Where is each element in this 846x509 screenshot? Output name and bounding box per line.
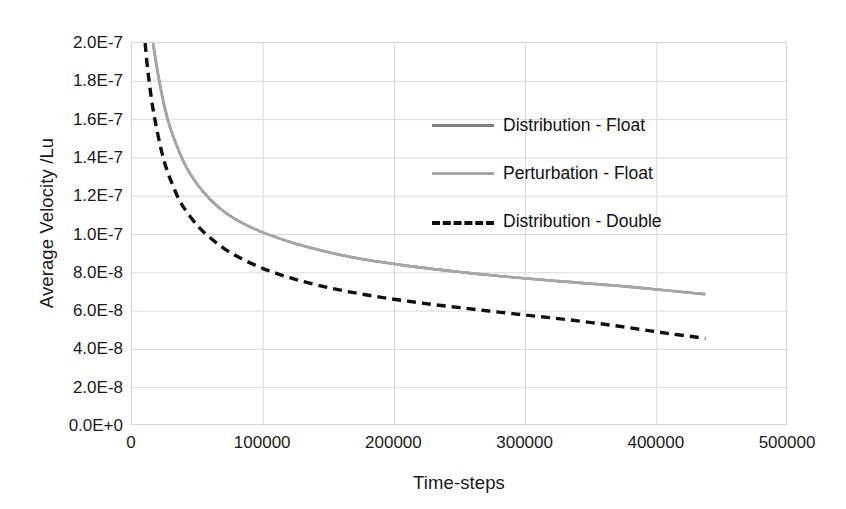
y-axis-tick-label: 1.0E-7 — [35, 226, 123, 243]
y-axis-tick-label: 1.2E-7 — [35, 187, 123, 204]
legend-item[interactable]: Distribution - Double — [432, 206, 722, 236]
x-axis-tick-label: 300000 — [455, 434, 595, 451]
y-axis-tick-label: 0.0E+0 — [35, 417, 123, 434]
x-axis-title: Time-steps — [131, 472, 787, 494]
legend-item-label: Perturbation - Float — [503, 163, 653, 183]
chart-legend: Distribution - FloatPerturbation - Float… — [432, 110, 722, 254]
y-axis-tick-label: 1.6E-7 — [35, 111, 123, 128]
legend-line-swatch-icon — [432, 167, 494, 179]
x-axis-tick-label: 0 — [61, 434, 201, 451]
legend-item[interactable]: Perturbation - Float — [432, 158, 722, 188]
y-axis-tick-label: 2.0E-8 — [35, 379, 123, 396]
y-axis-tick-label: 6.0E-8 — [35, 302, 123, 319]
x-axis-tick-label: 500000 — [717, 434, 846, 451]
legend-item[interactable]: Distribution - Float — [432, 110, 722, 140]
y-axis-tick-label: 1.4E-7 — [35, 149, 123, 166]
legend-item-label: Distribution - Double — [503, 211, 662, 231]
x-axis-tick-label: 400000 — [586, 434, 726, 451]
legend-item-label: Distribution - Float — [503, 115, 645, 135]
y-axis-tick-label: 1.8E-7 — [35, 72, 123, 89]
y-axis-tick-labels: 0.0E+02.0E-84.0E-86.0E-88.0E-81.0E-71.2E… — [27, 0, 123, 509]
y-axis-tick-label: 8.0E-8 — [35, 264, 123, 281]
chart-container: Average Velocity /Lu 0.0E+02.0E-84.0E-86… — [0, 0, 846, 509]
x-axis-tick-label: 100000 — [192, 434, 332, 451]
legend-line-swatch-icon — [432, 215, 494, 227]
y-axis-tick-label: 4.0E-8 — [35, 340, 123, 357]
x-axis-tick-label: 200000 — [323, 434, 463, 451]
legend-line-swatch-icon — [432, 119, 494, 131]
y-axis-tick-label: 2.0E-7 — [35, 34, 123, 51]
